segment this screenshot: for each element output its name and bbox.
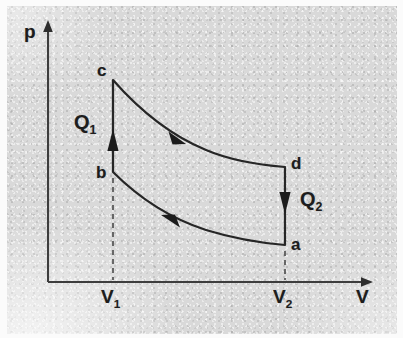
v1-tick-label-main: V — [101, 286, 114, 307]
plot-canvas — [0, 0, 403, 338]
y-axis-label: p — [24, 22, 36, 41]
state-label-a: a — [291, 236, 300, 253]
pv-diagram-figure: p V V1 V2 c b d a Q1 Q2 — [0, 0, 403, 338]
isotherm-ab-curve — [113, 172, 285, 245]
v2-tick-label-sub: 2 — [286, 297, 293, 310]
y-axis-arrowhead — [43, 20, 53, 32]
heat-label-q1: Q1 — [74, 112, 96, 136]
state-label-b: b — [96, 164, 106, 181]
heat-label-q2-sub: 2 — [316, 200, 323, 214]
direction-arrow-ab-left — [161, 215, 180, 228]
state-label-d: d — [291, 155, 301, 172]
axis-group — [43, 20, 373, 287]
v1-tick-label-sub: 1 — [114, 297, 121, 310]
state-label-c: c — [97, 62, 106, 79]
heat-label-q1-main: Q — [74, 111, 90, 133]
direction-marker-group — [107, 129, 290, 228]
cycle-path-group — [113, 80, 285, 245]
v1-tick-label: V1 — [101, 287, 120, 310]
heat-label-q2-main: Q — [300, 188, 316, 210]
isotherm-cd-curve — [113, 80, 285, 167]
direction-arrow-bc-up — [107, 129, 118, 151]
heat-label-q2: Q2 — [300, 189, 322, 213]
v2-tick-label-main: V — [273, 286, 286, 307]
direction-arrow-da-down — [279, 192, 290, 214]
x-axis-label: V — [356, 287, 369, 306]
heat-label-q1-sub: 1 — [90, 123, 97, 137]
v2-tick-label: V2 — [273, 287, 292, 310]
